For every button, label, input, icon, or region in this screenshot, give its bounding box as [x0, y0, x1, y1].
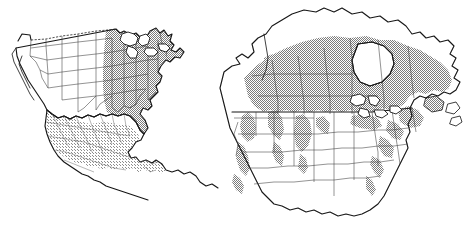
southern-range-map-svg	[0, 0, 232, 229]
maritimes-newfoundland	[424, 96, 462, 126]
map-panel-left	[0, 0, 232, 229]
range-shading-mexico	[46, 112, 170, 176]
range-map-figure	[0, 0, 469, 229]
northern-range-map-svg	[212, 0, 469, 229]
map-panel-right	[212, 0, 469, 229]
